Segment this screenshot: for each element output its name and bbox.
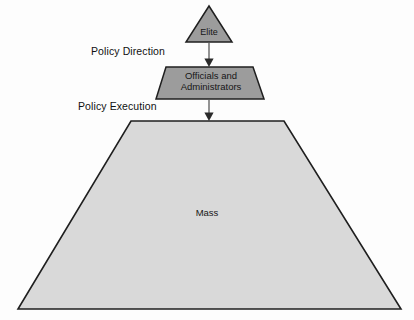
mass-label: Mass: [182, 207, 232, 218]
policy-direction-arrow: [204, 43, 213, 67]
officials-label: Officials and Administrators: [160, 70, 262, 92]
elite-label: Elite: [186, 27, 232, 38]
policy-execution-arrowhead: [204, 113, 213, 122]
officials-label-line2: Administrators: [160, 81, 262, 92]
policy-execution-label: Policy Execution: [78, 100, 157, 112]
policy-direction-arrowhead: [204, 59, 213, 68]
diagram-graphics: [0, 0, 414, 320]
policy-direction-label: Policy Direction: [91, 45, 165, 57]
policy-execution-arrow: [204, 100, 213, 121]
diagram-canvas: Elite Officials and Administrators Mass …: [0, 0, 414, 320]
officials-label-line1: Officials and: [160, 70, 262, 81]
